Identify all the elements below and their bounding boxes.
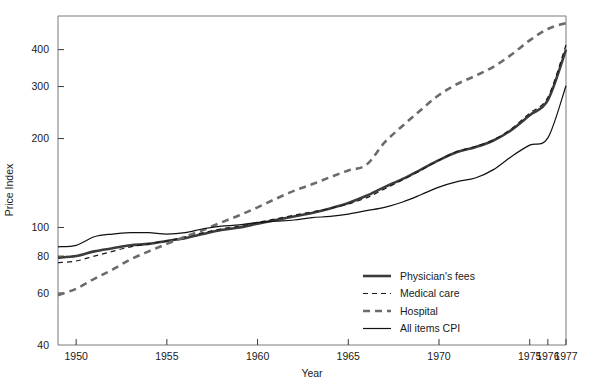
x-axis-title: Year bbox=[301, 367, 323, 379]
chart-canvas: 406080100200300400 195019551960196519701… bbox=[0, 0, 590, 384]
y-axis-tick-label: 40 bbox=[37, 339, 49, 351]
y-axis-tick-label: 300 bbox=[31, 80, 49, 92]
legend-label-3: All items CPI bbox=[400, 322, 460, 334]
y-axis-tick-label: 100 bbox=[31, 221, 49, 233]
y-axis-tick-label: 60 bbox=[37, 287, 49, 299]
price-index-line-chart: 406080100200300400 195019551960196519701… bbox=[0, 0, 590, 384]
x-axis-tick-label: 1960 bbox=[246, 350, 270, 362]
legend-label-0: Physician's fees bbox=[400, 270, 475, 282]
legend-label-1: Medical care bbox=[400, 287, 460, 299]
y-axis-title: Price Index bbox=[3, 163, 15, 216]
x-axis-tick-label: 1955 bbox=[155, 350, 179, 362]
chart-background bbox=[0, 0, 590, 384]
y-axis-tick-label: 200 bbox=[31, 132, 49, 144]
y-axis-tick-label: 400 bbox=[31, 43, 49, 55]
x-axis-tick-label: 1977 bbox=[554, 350, 578, 362]
legend-label-2: Hospital bbox=[400, 305, 438, 317]
x-axis-tick-label: 1965 bbox=[337, 350, 361, 362]
x-axis-tick-label: 1950 bbox=[64, 350, 88, 362]
y-axis-tick-label: 80 bbox=[37, 250, 49, 262]
x-axis-tick-label: 1970 bbox=[427, 350, 451, 362]
